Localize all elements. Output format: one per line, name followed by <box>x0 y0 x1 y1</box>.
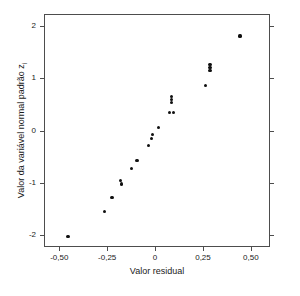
data-point <box>157 126 160 129</box>
y-tick-label: 1 <box>32 73 36 83</box>
x-tick <box>251 247 252 251</box>
y-tick-right <box>270 78 274 79</box>
x-tick-label: 0,50 <box>243 253 259 263</box>
y-tick <box>40 26 44 27</box>
data-point <box>150 137 153 140</box>
x-tick-label: 0 <box>153 253 157 263</box>
data-point <box>110 196 113 199</box>
data-point <box>172 111 175 114</box>
data-point <box>147 144 150 147</box>
y-tick-label: 0 <box>32 126 36 136</box>
normal-probability-plot-figure: -0,50-0,2500,250,50 -2-1012 Valor residu… <box>0 0 300 296</box>
y-tick-label: -1 <box>29 178 36 188</box>
x-tick-label: 0,25 <box>195 253 211 263</box>
x-tick-label: -0,50 <box>50 253 68 263</box>
y-tick-right <box>270 235 274 236</box>
x-axis-title-text: Valor residual <box>130 266 184 276</box>
y-tick <box>40 131 44 132</box>
y-axis-title-subscript: i <box>21 63 28 64</box>
plot-area <box>44 14 270 247</box>
data-point <box>151 133 154 136</box>
data-point <box>168 111 171 114</box>
data-point <box>208 66 211 69</box>
data-point <box>204 84 207 87</box>
x-tick-label: -0,25 <box>98 253 116 263</box>
y-tick <box>40 183 44 184</box>
x-tick <box>107 247 108 251</box>
y-tick <box>40 235 44 236</box>
scatter-points-layer <box>45 15 269 246</box>
y-tick-right <box>270 183 274 184</box>
y-tick-right <box>270 131 274 132</box>
x-tick <box>203 247 204 251</box>
data-point <box>120 182 123 185</box>
y-tick-right <box>270 26 274 27</box>
y-axis-title: Valor da variável normal padrão zi <box>14 14 28 247</box>
data-point <box>238 34 241 37</box>
y-tick-label: -2 <box>29 230 36 240</box>
data-point <box>135 159 138 162</box>
y-tick-label: 2 <box>32 21 36 31</box>
x-tick <box>59 247 60 251</box>
x-axis-title: Valor residual <box>44 266 270 276</box>
data-point <box>103 210 106 213</box>
x-tick <box>155 247 156 251</box>
data-point <box>130 167 133 170</box>
data-point <box>66 235 69 238</box>
data-point <box>170 98 173 101</box>
y-tick <box>40 78 44 79</box>
y-axis-title-text: Valor da variável normal padrão z <box>16 64 26 198</box>
